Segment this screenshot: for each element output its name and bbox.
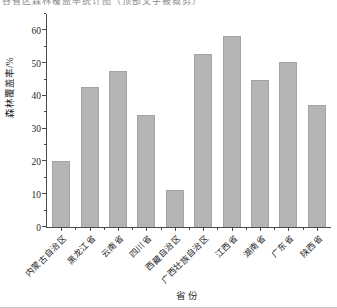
x-axis-minor-tick: [217, 227, 218, 230]
bars-container: [47, 14, 331, 227]
clipped-caption-text: 各省区森林覆盖率统计图（顶部文字被裁剪）: [2, 0, 332, 5]
bar-slot: [47, 14, 75, 227]
x-axis-major-tick: [232, 227, 233, 231]
y-axis-minor-tick: [44, 79, 47, 80]
bar-slot: [132, 14, 160, 227]
bar-陕西省: [308, 105, 326, 227]
x-tick-label: 黑龙江省: [63, 232, 97, 266]
y-tick-label: 60: [17, 26, 41, 36]
y-axis-minor-tick: [44, 210, 47, 211]
x-tick-label: 陕西省: [297, 232, 325, 260]
bar-slot: [161, 14, 189, 227]
bar-云南省: [109, 71, 127, 227]
bar-slot: [274, 14, 302, 227]
x-axis-major-tick: [288, 227, 289, 231]
x-tick-label: 内蒙古自治区: [22, 232, 69, 279]
bar-slot: [76, 14, 104, 227]
bar-slot: [303, 14, 331, 227]
x-axis-minor-tick: [303, 227, 304, 230]
bar-四川省: [137, 115, 155, 227]
x-axis-labels: 内蒙古自治区黑龙江省云南省四川省西藏自治区广西壮族自治区江西省湖南省广东省陕西省: [46, 232, 330, 286]
y-tick-label: 20: [17, 157, 41, 167]
x-axis-major-tick: [203, 227, 204, 231]
y-axis-minor-tick: [44, 46, 47, 47]
bar-slot: [189, 14, 217, 227]
y-axis-major-tick: [42, 62, 46, 63]
x-tick-label: 云南省: [98, 232, 126, 260]
bar-slot: [104, 14, 132, 227]
clipped-caption: 各省区森林覆盖率统计图（顶部文字被裁剪）: [2, 0, 332, 5]
x-axis-major-tick: [146, 227, 147, 231]
x-tick-label: 广东省: [268, 232, 296, 260]
bar-slot: [246, 14, 274, 227]
bar-西藏自治区: [166, 190, 184, 227]
y-tick-label: 0: [17, 223, 41, 233]
bar-广东省: [279, 62, 297, 227]
x-axis-minor-tick: [132, 227, 133, 230]
x-tick-label: 湖南省: [240, 232, 268, 260]
y-axis-major-tick: [42, 193, 46, 194]
x-axis-minor-tick: [246, 227, 247, 230]
bar-slot: [218, 14, 246, 227]
x-axis-major-tick: [317, 227, 318, 231]
x-axis-major-tick: [118, 227, 119, 231]
bar-湖南省: [251, 80, 269, 227]
bar-黑龙江省: [81, 87, 99, 227]
bar-江西省: [223, 36, 241, 227]
figure: 各省区森林覆盖率统计图（顶部文字被裁剪） 森林覆盖率/% 01020304050…: [0, 0, 337, 308]
y-axis-minor-tick: [44, 13, 47, 14]
y-tick-label: 10: [17, 190, 41, 200]
y-axis-minor-tick: [44, 111, 47, 112]
y-axis-minor-tick: [44, 144, 47, 145]
x-axis-major-tick: [260, 227, 261, 231]
y-tick-label: 30: [17, 124, 41, 134]
x-axis-title: 省份: [46, 288, 330, 302]
x-axis-major-tick: [175, 227, 176, 231]
y-tick-label: 40: [17, 91, 41, 101]
y-axis-major-tick: [42, 95, 46, 96]
x-axis-major-tick: [61, 227, 62, 231]
y-axis-major-tick: [42, 160, 46, 161]
y-axis-major-tick: [42, 226, 46, 227]
y-tick-label: 50: [17, 59, 41, 69]
x-tick-label: 江西省: [212, 232, 240, 260]
x-axis-minor-tick: [104, 227, 105, 230]
y-axis-title: 森林覆盖率/%: [2, 57, 16, 118]
x-axis-minor-tick: [75, 227, 76, 230]
bar-广西壮族自治区: [194, 54, 212, 227]
x-axis-major-tick: [90, 227, 91, 231]
bar-内蒙古自治区: [52, 161, 70, 227]
bar-chart-plot-area: 0102030405060: [46, 14, 331, 228]
y-axis-major-tick: [42, 128, 46, 129]
y-axis-major-tick: [42, 29, 46, 30]
y-axis-minor-tick: [44, 177, 47, 178]
x-axis-minor-tick: [161, 227, 162, 230]
x-axis-minor-tick: [189, 227, 190, 230]
x-axis-minor-tick: [274, 227, 275, 230]
